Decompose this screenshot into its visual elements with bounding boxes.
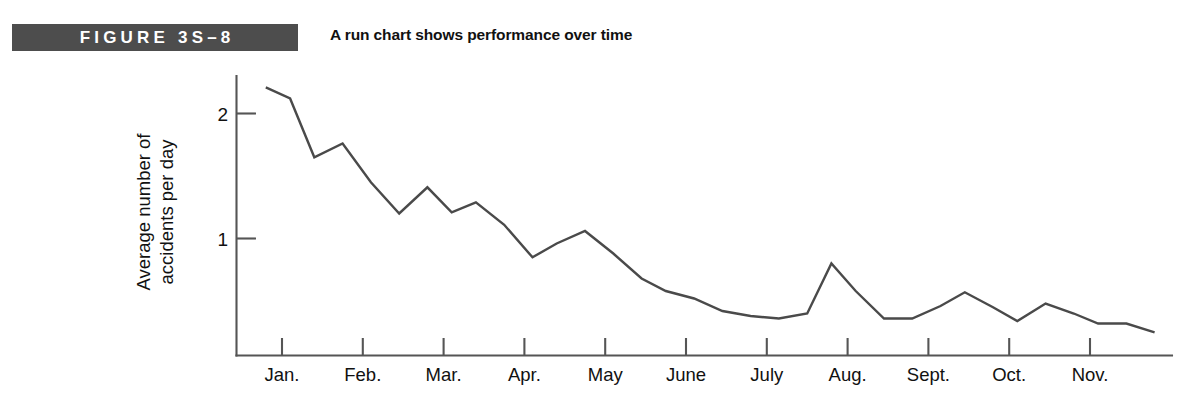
y-axis-title: Average number of accidents per day — [133, 133, 177, 291]
x-tick-label: Sept. — [907, 364, 950, 385]
y-tick-label-1: 1 — [217, 229, 228, 250]
x-tick-label: Jan. — [265, 364, 300, 385]
figure-caption: A run chart shows performance over time — [330, 26, 632, 44]
y-axis-title-line1: Average number of — [133, 133, 154, 291]
x-tick-label: June — [666, 364, 706, 385]
run-chart-data-line — [266, 87, 1155, 332]
x-tick-label: Aug. — [829, 364, 867, 385]
x-tick-label: Apr. — [508, 364, 541, 385]
y-tick-label-2: 2 — [217, 104, 228, 125]
y-axis-title-line2: accidents per day — [156, 139, 177, 285]
x-tick-label: Nov. — [1072, 364, 1109, 385]
run-chart-svg: 2 1 Average number of accidents per day … — [0, 62, 1202, 405]
x-tick-label: July — [750, 364, 784, 385]
figure-label-bar: FIGURE 3S–8 — [12, 24, 298, 51]
x-tick-label: Oct. — [992, 364, 1026, 385]
chart-plot-area: 2 1 Average number of accidents per day … — [0, 62, 1202, 405]
x-tick-label: Feb. — [344, 364, 381, 385]
figure-root: FIGURE 3S–8 A run chart shows performanc… — [0, 0, 1202, 405]
figure-number-label: FIGURE 3S–8 — [12, 24, 298, 51]
x-tick-label: May — [588, 364, 624, 385]
x-axis-ticks: Jan.Feb.Mar.Apr.MayJuneJulyAug.Sept.Oct.… — [265, 338, 1109, 385]
figure-header: FIGURE 3S–8 A run chart shows performanc… — [0, 0, 1202, 62]
x-tick-label: Mar. — [426, 364, 462, 385]
